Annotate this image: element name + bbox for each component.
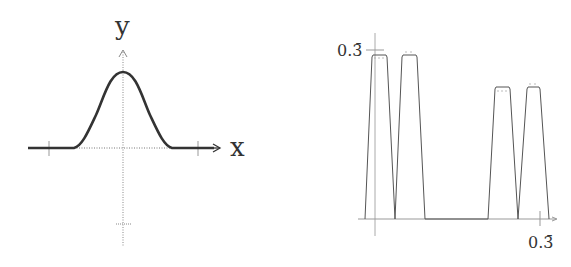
peaks-curve: [365, 55, 549, 219]
figure-canvas: x y 0.3̄ 0.3̄: [0, 0, 571, 267]
left-x-label: x: [230, 132, 245, 162]
right-y-tick-label: 0.3̄: [337, 41, 362, 60]
left-y-label: y: [114, 11, 130, 41]
left-plot: x y: [28, 11, 245, 247]
left-y-arrow-icon: [119, 50, 127, 57]
right-x-tick-label: 0.3̄: [528, 233, 553, 252]
bump-curve: [28, 72, 214, 148]
right-plot: 0.3̄ 0.3̄: [337, 33, 557, 252]
